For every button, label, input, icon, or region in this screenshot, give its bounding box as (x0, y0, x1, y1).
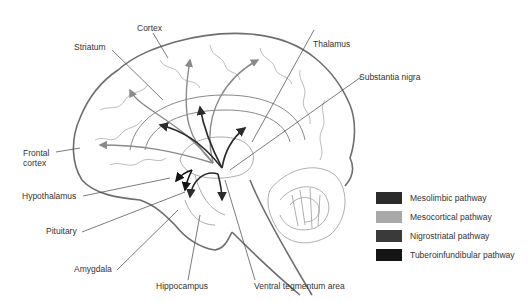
label-pituitary: Pituitary (46, 226, 77, 236)
label-hypothalamus: Hypothalamus (22, 191, 76, 201)
label-amygdala: Amygdala (74, 264, 112, 274)
cerebellum (268, 168, 345, 243)
label-ventral-tegmentum-area: Ventral tegmentum area (254, 281, 345, 291)
label-frontal-cortex-line1: Frontal (23, 148, 49, 158)
legend: Mesolimbic pathway Mesocortical pathway … (376, 189, 515, 265)
label-hippocampus: Hippocampus (156, 281, 208, 291)
legend-item-mesolimbic: Mesolimbic pathway (376, 189, 515, 207)
legend-label: Mesocortical pathway (410, 212, 492, 222)
legend-item-mesocortical: Mesocortical pathway (376, 208, 515, 226)
brain-pathways-diagram: Cortex Striatum Thalamus Substantia nigr… (0, 0, 531, 301)
legend-swatch-mesolimbic (376, 192, 402, 204)
brain-outline (73, 33, 354, 295)
label-striatum: Striatum (74, 42, 106, 52)
legend-swatch-mesocortical (376, 211, 402, 223)
legend-label: Tuberoinfundibular pathway (410, 250, 515, 260)
legend-item-tuberoinfundibular: Tuberoinfundibular pathway (376, 246, 515, 264)
leader-lines (56, 30, 361, 280)
legend-item-nigrostriatal: Nigrostriatal pathway (376, 227, 515, 245)
label-frontal-cortex-line2: cortex (23, 158, 46, 168)
mesolimbic-pathway (160, 107, 245, 200)
tuberoinfundibular-pathway (176, 170, 192, 190)
legend-swatch-nigrostriatal (376, 230, 402, 242)
label-substantia-nigra: Substantia nigra (359, 72, 420, 82)
legend-label: Nigrostriatal pathway (410, 231, 489, 241)
mesocortical-pathway (100, 60, 258, 163)
label-cortex: Cortex (137, 23, 162, 33)
legend-swatch-tuberoinfundibular (376, 249, 402, 261)
legend-label: Mesolimbic pathway (410, 193, 487, 203)
label-thalamus: Thalamus (313, 39, 350, 49)
